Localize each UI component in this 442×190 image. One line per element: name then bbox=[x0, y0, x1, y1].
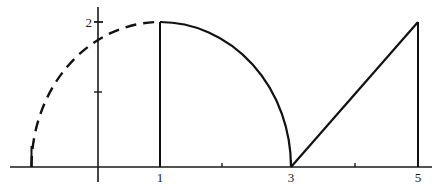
x-tick-label-1: 1 bbox=[157, 170, 164, 185]
x-tick-label-5: 5 bbox=[415, 170, 422, 185]
chart-figure: 1 3 5 2 bbox=[0, 0, 442, 190]
series-ramp-line bbox=[291, 22, 418, 167]
series-semicircle-dashed bbox=[32, 22, 161, 167]
series-semicircle-solid bbox=[160, 22, 291, 167]
x-tick-label-3: 3 bbox=[288, 170, 295, 185]
y-tick-label-2: 2 bbox=[86, 15, 93, 30]
chart-svg: 1 3 5 2 bbox=[0, 0, 442, 190]
